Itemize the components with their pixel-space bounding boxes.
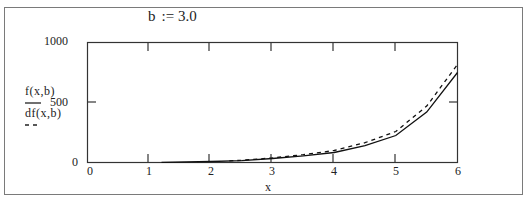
- x-ticks-top: [148, 43, 395, 51]
- series-df-line: [229, 65, 457, 161]
- plot-border: [88, 43, 458, 163]
- plot-canvas[interactable]: [0, 0, 529, 200]
